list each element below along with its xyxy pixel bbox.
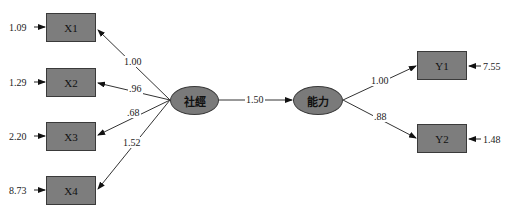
loading-label-x4: 1.52: [122, 137, 142, 148]
indicator-label: X2: [64, 77, 77, 89]
error-label-y1: 7.55: [482, 61, 502, 72]
indicator-label: Y1: [435, 60, 448, 72]
loading-label-x2: .96: [128, 83, 143, 94]
indicator-x1: X1: [46, 13, 96, 42]
indicator-x4: X4: [46, 176, 96, 205]
indicator-label: X4: [64, 185, 77, 197]
sem-path-diagram: X1 X2 X3 X4 1.09 1.29 2.20 8.73 1.00 .96…: [0, 0, 508, 216]
error-label-y2: 1.48: [482, 134, 502, 145]
loading-label-x3: .68: [126, 107, 141, 118]
indicator-x2: X2: [46, 68, 96, 97]
indicator-label: X1: [64, 22, 77, 34]
loading-label-y1: 1.00: [370, 75, 390, 86]
indicator-y1: Y1: [417, 51, 467, 80]
error-label-x3: 2.20: [8, 131, 28, 142]
loading-label-x1: 1.00: [123, 56, 143, 67]
latent-socioeconomic: 社經: [170, 86, 219, 115]
latent-label: 能力: [307, 93, 329, 109]
loading-label-y2: .88: [373, 111, 388, 122]
error-label-x4: 8.73: [8, 185, 28, 196]
error-label-x2: 1.29: [8, 77, 28, 88]
latent-label: 社經: [184, 93, 206, 109]
latent-ability: 能力: [293, 86, 343, 115]
indicator-label: X3: [64, 131, 77, 143]
structural-path-label: 1.50: [245, 94, 265, 105]
indicator-label: Y2: [435, 133, 448, 145]
indicator-x3: X3: [46, 122, 96, 151]
error-label-x1: 1.09: [8, 22, 28, 33]
indicator-y2: Y2: [417, 124, 467, 153]
